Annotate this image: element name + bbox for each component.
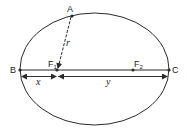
label-a: A	[67, 4, 73, 14]
label-c: C	[172, 65, 179, 75]
label-x: x	[35, 76, 41, 87]
label-r: r	[66, 37, 70, 48]
label-b: B	[10, 65, 16, 75]
label-f2: F2	[134, 59, 144, 70]
point-b	[18, 68, 21, 71]
label-y: y	[105, 76, 111, 87]
point-c	[167, 68, 170, 71]
point-a	[70, 14, 73, 17]
ellipse-diagram: A B C F1 F2 r x y	[0, 0, 187, 130]
label-f1: F1	[48, 59, 58, 70]
ellipse-outline	[20, 13, 169, 125]
